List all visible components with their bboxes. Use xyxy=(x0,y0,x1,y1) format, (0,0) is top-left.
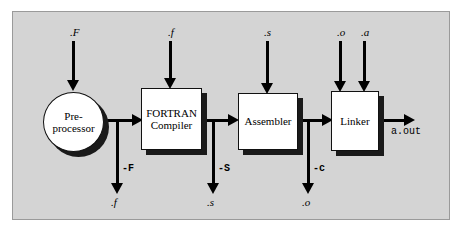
input-arrow-line-assembler xyxy=(266,41,269,85)
output-label-assembler: .o xyxy=(302,196,310,208)
node-preprocessor-label-line2: processor xyxy=(52,122,94,134)
input-label-linker-archive: .a xyxy=(361,26,369,38)
node-linker[interactable]: Linker xyxy=(331,91,379,151)
output-label-preprocessor: .f xyxy=(111,196,117,208)
branch-arrow-assembler xyxy=(302,183,314,194)
output-label-compiler: .s xyxy=(207,196,214,208)
input-label-assembler: .s xyxy=(264,26,271,38)
input-label-preprocessor: .F xyxy=(70,26,79,38)
node-assembler[interactable]: Assembler xyxy=(238,93,298,150)
branch-line-compiler xyxy=(212,119,215,186)
input-label-compiler: .f xyxy=(168,26,174,38)
input-arrow-line-compiler xyxy=(169,41,172,80)
branch-arrow-compiler xyxy=(207,183,219,194)
branch-line-assembler xyxy=(307,119,310,186)
input-arrow-head-preprocessor xyxy=(67,80,79,91)
node-fortran-compiler-label-line2: Compiler xyxy=(146,119,197,131)
flag-label-preprocessor: -F xyxy=(122,163,134,174)
flag-label-compiler: -S xyxy=(218,163,230,174)
node-fortran-compiler[interactable]: FORTRAN Compiler xyxy=(141,88,202,150)
flow-arrow-linker-to-output xyxy=(404,114,415,126)
output-label-final: a.out xyxy=(391,126,421,137)
node-linker-label: Linker xyxy=(340,115,369,127)
input-arrow-line-linker-object xyxy=(339,41,342,83)
node-assembler-label: Assembler xyxy=(244,115,291,127)
node-preprocessor[interactable]: Pre- processor xyxy=(43,92,104,152)
input-arrow-line-preprocessor xyxy=(72,41,75,82)
flag-label-assembler: -c xyxy=(313,163,325,174)
input-arrow-line-linker-archive xyxy=(363,41,366,83)
input-label-linker-object: .o xyxy=(337,26,345,38)
diagram-canvas: .F .f .s .o .a a.out -F .f -S .s -c .o xyxy=(0,0,466,236)
branch-arrow-preprocessor xyxy=(111,183,123,194)
branch-line-preprocessor xyxy=(116,119,119,186)
node-preprocessor-label-line1: Pre- xyxy=(52,110,94,122)
node-fortran-compiler-label-line1: FORTRAN xyxy=(146,107,197,119)
